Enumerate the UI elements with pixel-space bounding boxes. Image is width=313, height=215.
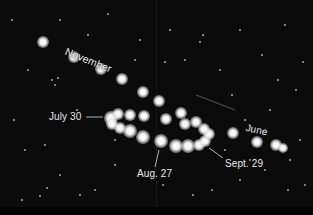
- image-seam: [156, 0, 157, 215]
- mars-retrograde-photo: November July 30 Aug. 27 Sept. 29 June: [0, 0, 313, 215]
- label-aug-27: Aug. 27: [137, 168, 172, 179]
- label-july-30: July 30: [49, 111, 81, 122]
- label-sept-29: Sept. 29: [225, 158, 263, 169]
- sept29-leader-line: [209, 148, 223, 158]
- satellite-trail: [196, 95, 235, 110]
- bottom-border: [0, 207, 313, 215]
